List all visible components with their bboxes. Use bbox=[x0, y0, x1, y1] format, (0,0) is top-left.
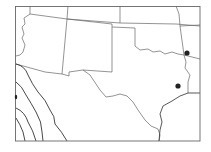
location-marker[interactable] bbox=[184, 50, 189, 55]
location-marker[interactable] bbox=[175, 83, 180, 88]
map bbox=[0, 0, 211, 152]
location-marker[interactable] bbox=[15, 95, 17, 99]
